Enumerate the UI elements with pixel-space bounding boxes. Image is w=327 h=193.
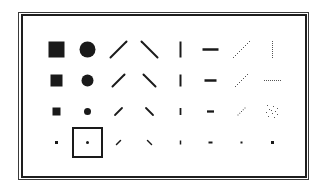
brush-circle-small[interactable] (72, 96, 103, 127)
brush-horizontal-line-tiny[interactable] (195, 127, 226, 158)
brush-back-slash-medium[interactable] (134, 65, 165, 96)
dotted-forward-slash-brush-icon (226, 34, 257, 65)
horizontal-line-brush-icon (195, 127, 226, 158)
brush-spray-small[interactable] (257, 96, 288, 127)
square-brush-icon (41, 96, 72, 127)
square-brush-icon (41, 127, 72, 158)
brush-dotted-forward-slash-large[interactable] (226, 34, 257, 65)
brush-horizontal-line-small[interactable] (195, 96, 226, 127)
spray-brush-icon (257, 96, 288, 127)
forward-slash-brush-icon (103, 96, 134, 127)
forward-slash-brush-icon (103, 65, 134, 96)
brush-dotted-forward-slash-medium[interactable] (226, 65, 257, 96)
circle-brush-icon (72, 127, 103, 158)
circle-brush-icon (72, 96, 103, 127)
brush-back-slash-small[interactable] (134, 96, 165, 127)
brush-dotted-vertical-line-large[interactable] (257, 34, 288, 65)
brush-vertical-line-medium[interactable] (165, 65, 196, 96)
square-brush-icon (41, 34, 72, 65)
brush-horizontal-line-medium[interactable] (195, 65, 226, 96)
brush-vertical-line-large[interactable] (165, 34, 196, 65)
brush-vertical-line-small[interactable] (165, 96, 196, 127)
circle-brush-icon (72, 34, 103, 65)
horizontal-line-brush-icon (195, 96, 226, 127)
brush-circle-large[interactable] (72, 34, 103, 65)
brush-horizontal-line-large[interactable] (195, 34, 226, 65)
horizontal-line-brush-icon (195, 34, 226, 65)
brush-dotted-forward-slash-small[interactable] (226, 96, 257, 127)
dotted-forward-slash-brush-icon (226, 96, 257, 127)
vertical-line-brush-icon (165, 96, 196, 127)
back-slash-brush-icon (134, 65, 165, 96)
dotted-horizontal-line-brush-icon (257, 65, 288, 96)
back-slash-brush-icon (134, 34, 165, 65)
brush-back-slash-tiny[interactable] (134, 127, 165, 158)
brush-forward-slash-tiny[interactable] (103, 127, 134, 158)
brush-forward-slash-medium[interactable] (103, 65, 134, 96)
forward-slash-brush-icon (103, 34, 134, 65)
dot-brush-icon (226, 127, 257, 158)
back-slash-brush-icon (134, 96, 165, 127)
brush-square-tiny[interactable] (41, 127, 72, 158)
dot-brush-icon (257, 127, 288, 158)
brush-palette (0, 0, 327, 193)
brush-dotted-horizontal-line-medium[interactable] (257, 65, 288, 96)
brush-back-slash-large[interactable] (134, 34, 165, 65)
brush-square-medium[interactable] (41, 65, 72, 96)
vertical-line-brush-icon (165, 65, 196, 96)
brush-circle-medium[interactable] (72, 65, 103, 96)
brush-square-large[interactable] (41, 34, 72, 65)
brush-dot-tiny[interactable] (226, 127, 257, 158)
dotted-forward-slash-brush-icon (226, 65, 257, 96)
forward-slash-brush-icon (103, 127, 134, 158)
brush-circle-tiny-selected[interactable] (72, 127, 103, 158)
back-slash-brush-icon (134, 127, 165, 158)
square-brush-icon (41, 65, 72, 96)
brush-forward-slash-small[interactable] (103, 96, 134, 127)
brush-vertical-line-tiny[interactable] (165, 127, 196, 158)
vertical-line-brush-icon (165, 127, 196, 158)
brush-square-small[interactable] (41, 96, 72, 127)
brush-forward-slash-large[interactable] (103, 34, 134, 65)
horizontal-line-brush-icon (195, 65, 226, 96)
circle-brush-icon (72, 65, 103, 96)
dotted-vertical-line-brush-icon (257, 34, 288, 65)
vertical-line-brush-icon (165, 34, 196, 65)
brush-dot-tiny[interactable] (257, 127, 288, 158)
